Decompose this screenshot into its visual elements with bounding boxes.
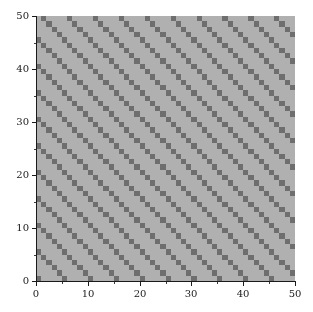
y-tick-label: 20	[16, 170, 29, 180]
y-tick-minor	[34, 96, 36, 97]
y-tick-label: 40	[16, 64, 29, 74]
axis-spine-left	[36, 16, 37, 282]
x-tick-label: 10	[82, 289, 95, 299]
x-tick-label: 30	[185, 289, 198, 299]
y-tick-major	[32, 69, 36, 70]
x-tick-minor	[217, 282, 218, 284]
y-tick-label: 10	[16, 223, 29, 233]
x-tick-major	[88, 282, 89, 286]
y-tick-major	[32, 175, 36, 176]
x-tick-major	[36, 282, 37, 286]
heatmap-grid	[36, 16, 295, 281]
y-tick-major	[32, 281, 36, 282]
y-tick-label: 30	[16, 117, 29, 127]
heatmap-plot-area	[36, 16, 295, 281]
x-tick-label: 20	[134, 289, 147, 299]
y-tick-minor	[34, 202, 36, 203]
x-tick-major	[140, 282, 141, 286]
y-tick-major	[32, 16, 36, 17]
x-tick-major	[191, 282, 192, 286]
x-tick-major	[243, 282, 244, 286]
x-tick-minor	[114, 282, 115, 284]
y-tick-minor	[34, 255, 36, 256]
y-tick-label: 0	[23, 276, 29, 286]
x-tick-minor	[269, 282, 270, 284]
x-tick-label: 40	[237, 289, 250, 299]
figure-canvas: 01020304050 01020304050	[0, 0, 313, 312]
y-tick-minor	[34, 43, 36, 44]
x-tick-minor	[166, 282, 167, 284]
y-tick-minor	[34, 149, 36, 150]
y-tick-label: 50	[16, 11, 29, 21]
y-tick-major	[32, 228, 36, 229]
x-tick-label: 50	[289, 289, 302, 299]
x-tick-minor	[62, 282, 63, 284]
y-tick-major	[32, 122, 36, 123]
x-tick-label: 0	[33, 289, 39, 299]
x-tick-major	[295, 282, 296, 286]
